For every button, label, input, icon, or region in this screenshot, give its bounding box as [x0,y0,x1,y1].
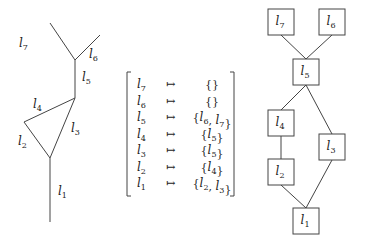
graph-edge-l7-l5 [281,35,306,59]
mapping-row: l4↦{l5} [137,127,223,144]
graph-node-l3: l3 [319,134,345,160]
maps-to-arrow: ↦ [166,78,176,91]
mapping-value: {l6, l7} [193,110,232,130]
maps-to-arrow: ↦ [166,128,176,141]
graph-edge-l2-l1 [281,185,306,208]
mapping-row: l6↦{} [137,94,219,110]
graph-node-l1: l1 [293,208,319,234]
maps-to-arrow: ↦ [166,144,176,157]
graph-node-l7: l7 [268,9,294,35]
graph-edge-l3-l1 [306,160,332,208]
right-bracket [230,72,234,196]
mapping-value: {l5} [201,127,224,144]
maps-to-arrow: ↦ [166,95,176,108]
diagram-canvas: l7l6l5l4l3l2l1 l7↦{}l6↦{}l5↦{l6, l7}l4↦{… [0,0,366,246]
tree-diagram: l7l6l5l4l3l2l1 [18,23,100,222]
mapping-key: l4 [137,127,146,143]
mapping-key: l7 [137,77,146,93]
tree-label-l7: l7 [19,36,28,52]
mapping-value: {l2, l3} [193,176,232,196]
mapping-row: l7↦{} [137,77,219,93]
tree-label-l3: l3 [71,121,80,137]
mapping-key: l1 [137,176,146,192]
mapping-value: {l5} [201,143,224,160]
mapping-value: {} [205,78,219,91]
tree-label-l1: l1 [58,184,67,200]
mapping-row: l3↦{l5} [137,143,223,160]
tree-edge-l4 [24,98,75,122]
tree-label-l2: l2 [18,134,27,150]
tree-edge-l2 [24,122,50,158]
mapping-key: l3 [137,143,146,159]
graph-node-l5: l5 [293,59,319,85]
tree-label-l5: l5 [82,70,91,86]
maps-to-arrow: ↦ [166,111,176,124]
graph-edge-l6-l5 [306,35,332,59]
mapping-key: l6 [137,94,146,110]
mapping-value: {l4} [201,160,224,177]
tree-label-l4: l4 [33,97,42,113]
tree-edge-l7 [50,23,75,60]
graph-edge-l5-l3 [306,85,332,134]
graph-node-l6: l6 [319,9,345,35]
mapping-row: l2↦{l4} [137,160,223,177]
tree-label-l6: l6 [89,47,98,63]
graph-node-l2: l2 [268,159,294,185]
mapping-value: {} [205,95,219,108]
mapping-matrix: l7↦{}l6↦{}l5↦{l6, l7}l4↦{l5}l3↦{l5}l2↦{l… [127,72,234,196]
dependency-graph: l7l6l5l4l3l2l1 [268,9,345,234]
mapping-row: l1↦{l2, l3} [137,176,231,196]
mapping-key: l2 [137,160,146,176]
maps-to-arrow: ↦ [166,161,176,174]
graph-edge-l5-l4 [281,85,306,110]
maps-to-arrow: ↦ [166,177,176,190]
graph-node-l4: l4 [268,110,294,136]
mapping-key: l5 [137,110,146,126]
left-bracket [127,72,131,196]
mapping-row: l5↦{l6, l7} [137,110,231,130]
